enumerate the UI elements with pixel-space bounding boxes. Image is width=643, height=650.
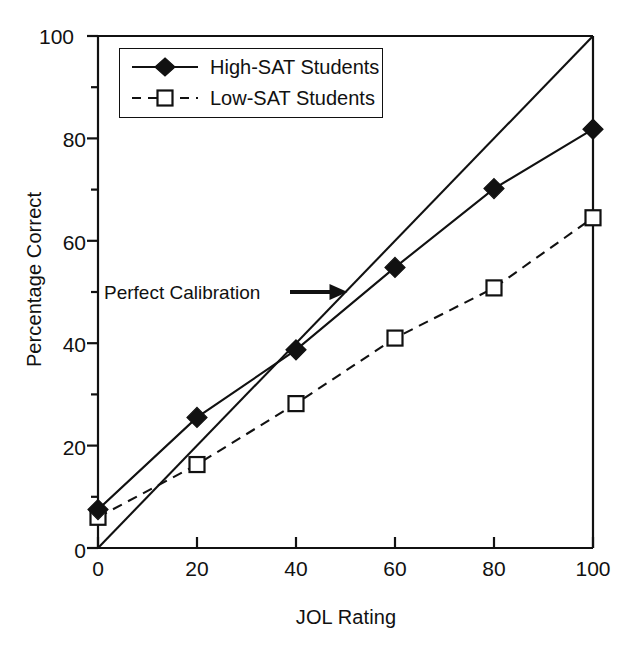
legend-sample-low-sat	[128, 85, 202, 111]
chart-legend: High-SAT Students Low-SAT Students	[119, 48, 383, 118]
series-markers-high-sat	[88, 119, 603, 519]
x-major-ticks	[98, 537, 593, 548]
marker-low-sat-3	[388, 331, 403, 346]
marker-low-sat-5	[586, 210, 601, 225]
series-line-high-sat	[98, 129, 593, 509]
filled-diamond-icon	[155, 58, 175, 76]
chart-figure: Percentage Correct 0 20 40 60 80 100 0 2…	[0, 0, 643, 650]
legend-sample-high-sat	[128, 54, 202, 80]
legend-entry-low-sat: Low-SAT Students	[128, 85, 375, 111]
marker-high-sat-4	[484, 179, 504, 199]
open-square-icon	[158, 91, 173, 106]
perfect-calibration-annotation: Perfect Calibration	[104, 283, 260, 302]
marker-low-sat-4	[487, 280, 502, 295]
marker-low-sat-1	[190, 457, 205, 472]
legend-label-high-sat: High-SAT Students	[210, 57, 379, 77]
marker-high-sat-5	[583, 119, 603, 139]
legend-label-low-sat: Low-SAT Students	[210, 88, 375, 108]
marker-low-sat-2	[289, 396, 304, 411]
legend-entry-high-sat: High-SAT Students	[128, 54, 379, 80]
